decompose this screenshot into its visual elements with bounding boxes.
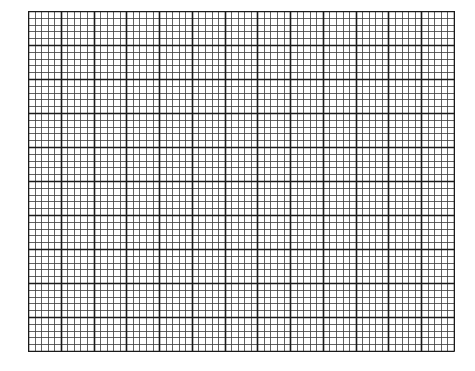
graph-paper-grid xyxy=(28,11,455,352)
major-grid-lines xyxy=(28,11,455,352)
